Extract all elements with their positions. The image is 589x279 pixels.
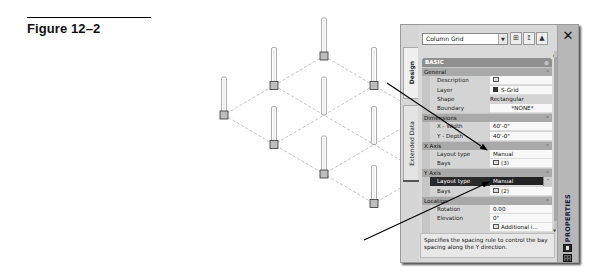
indent — [422, 95, 430, 104]
property-row-additional-info[interactable]: Additional i... — [422, 223, 552, 232]
property-row-y-bays[interactable]: Bays (2) — [422, 187, 552, 196]
property-name: Rotation — [437, 205, 460, 214]
category-label: Dimensions — [424, 115, 457, 121]
add-to-selection-icon: ⊞ — [513, 34, 519, 42]
property-name: Bays — [437, 159, 451, 168]
property-value[interactable]: 0" — [490, 214, 552, 223]
tab-extended-data[interactable]: Extended Data — [403, 105, 418, 181]
text-editor-icon[interactable] — [493, 224, 499, 229]
palette-title-text: PROPERTIES — [564, 194, 572, 242]
property-value[interactable]: 40'-0" — [490, 132, 552, 141]
chevron-down-icon[interactable]: ˅ — [543, 177, 552, 186]
property-row-description[interactable]: Description — [422, 76, 552, 85]
tab-extended-data-label: Extended Data — [408, 121, 415, 166]
select-objects-button[interactable]: ▲ — [536, 32, 548, 45]
quick-select-icon: ↥ — [526, 34, 532, 42]
grid-column — [320, 136, 328, 178]
property-name: Layer — [437, 86, 453, 95]
property-list: BASIC ⊛ General ˄ Description Layer S-Gr… — [422, 58, 552, 233]
category-y-axis[interactable]: Y Axis ˄ — [422, 168, 552, 177]
property-name: Boundary — [437, 104, 464, 113]
text-editor-icon[interactable] — [493, 160, 499, 165]
category-label: X Axis — [424, 143, 441, 149]
grid-column — [320, 18, 328, 60]
property-row-elevation[interactable]: Elevation 0" — [422, 214, 552, 223]
property-value[interactable]: (2) — [490, 187, 552, 196]
category-location[interactable]: Location ˄ — [422, 196, 552, 205]
indent — [422, 104, 430, 113]
property-value[interactable] — [490, 76, 552, 85]
tab-design[interactable]: Design — [403, 47, 418, 99]
indent — [422, 76, 430, 85]
grid-column — [270, 107, 278, 149]
property-row-x-width[interactable]: X - Width 60'-0" — [422, 122, 552, 131]
palette-properties-icon[interactable] — [563, 254, 572, 262]
property-row-rotation[interactable]: Rotation 0.00 — [422, 205, 552, 214]
column-base — [370, 200, 378, 208]
property-value[interactable]: Additional i... — [490, 223, 552, 232]
property-value[interactable]: 60'-0" — [490, 122, 552, 131]
collapse-icon[interactable]: ⊛ — [544, 58, 549, 67]
column-base — [320, 52, 328, 60]
property-value-text: Manual — [493, 178, 513, 184]
category-x-axis[interactable]: X Axis ˄ — [422, 141, 552, 150]
property-value-text: Additional i... — [501, 224, 538, 230]
property-name: Bays — [437, 187, 451, 196]
property-value[interactable]: *NONE* — [490, 104, 552, 113]
object-type-select[interactable]: Column Grid ▼ — [422, 33, 508, 45]
indent — [422, 187, 430, 196]
palette-title: PROPERTIES — [562, 193, 574, 243]
property-name: Layout type — [430, 177, 490, 186]
palette-title-bar[interactable]: ✕ PROPERTIES — [557, 25, 578, 262]
category-dimensions[interactable]: Dimensions ˄ — [422, 113, 552, 122]
category-label: General — [424, 69, 446, 75]
auto-hide-icon[interactable] — [563, 244, 572, 252]
indent — [422, 150, 430, 159]
grid-line-x — [224, 115, 374, 204]
grid-column — [370, 48, 378, 90]
indent — [422, 132, 430, 141]
property-name: Layout type — [437, 150, 470, 159]
property-value[interactable]: S-Grid — [490, 86, 552, 95]
add-to-selection-button[interactable]: ⊞ — [510, 32, 522, 45]
palette-body: Column Grid ▼ ⊞ ↥ ▲ ▲ ▼ BASIC ⊛ General … — [419, 25, 557, 262]
grid-column — [220, 77, 228, 119]
chevron-down-icon[interactable]: ▼ — [498, 34, 507, 44]
close-icon[interactable]: ✕ — [561, 29, 575, 43]
property-help-text: Specifies the spacing rule to control th… — [420, 233, 555, 258]
select-objects-icon: ▲ — [539, 34, 544, 42]
property-value-text: (3) — [501, 160, 509, 166]
property-value-text: (2) — [501, 188, 509, 194]
property-row-boundary[interactable]: Boundary *NONE* — [422, 104, 552, 113]
property-row-layer[interactable]: Layer S-Grid — [422, 86, 552, 95]
quick-select-button[interactable]: ↥ — [523, 32, 535, 45]
property-name: Elevation — [437, 214, 463, 223]
property-row-x-bays[interactable]: Bays (3) — [422, 159, 552, 168]
section-header-basic[interactable]: BASIC ⊛ — [422, 58, 552, 67]
property-row-shape[interactable]: Shape Rectangular — [422, 95, 552, 104]
property-value[interactable]: Manual — [490, 150, 552, 159]
grid-column — [322, 77, 327, 115]
grid-column — [372, 107, 377, 145]
property-value[interactable]: 0.00 — [490, 205, 552, 214]
column-base — [370, 82, 378, 90]
property-value-select[interactable]: Manual ˅ — [490, 177, 552, 186]
grid-column — [270, 48, 278, 90]
property-name: Description — [437, 76, 469, 85]
property-value[interactable]: (3) — [490, 159, 552, 168]
category-general[interactable]: General ˄ — [422, 67, 552, 76]
grid-column — [370, 166, 378, 208]
property-row-y-depth[interactable]: Y - Depth 40'-0" — [422, 132, 552, 141]
property-value: Rectangular — [490, 95, 552, 104]
indent — [422, 223, 430, 232]
property-row-x-layout-type[interactable]: Layout type Manual — [422, 150, 552, 159]
column-base — [270, 141, 278, 149]
section-header-label: BASIC — [425, 59, 444, 65]
indent — [422, 86, 430, 95]
text-editor-icon[interactable] — [493, 188, 499, 193]
column-base — [270, 82, 278, 90]
indent — [422, 177, 430, 186]
property-name: X - Width — [437, 122, 463, 131]
text-editor-icon[interactable] — [493, 77, 499, 82]
property-row-y-layout-type[interactable]: Layout type Manual ˅ — [422, 177, 552, 186]
